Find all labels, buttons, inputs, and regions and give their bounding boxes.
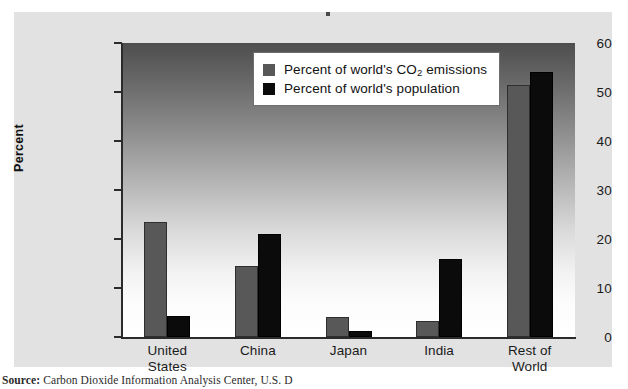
legend-swatch-population (263, 83, 275, 95)
source-text: Carbon Dioxide Information Analysis Cent… (43, 374, 293, 386)
bar-population (439, 259, 462, 337)
legend-swatch-co2 (263, 64, 275, 76)
bar-co2 (326, 317, 349, 337)
y-axis-tick (114, 287, 122, 288)
legend-item-population: Percent of world's population (263, 79, 487, 98)
source-prefix: Source: (2, 374, 40, 386)
x-axis-line (121, 337, 576, 339)
legend-item-co2: Percent of world's CO2 emissions (263, 60, 487, 79)
y-axis-tick (114, 42, 122, 43)
cropped-title-mark (326, 12, 330, 16)
figure-panel: 0102030405060 Percent UnitedStatesChinaJ… (14, 12, 612, 367)
source-caption: Source: Carbon Dioxide Information Analy… (2, 374, 293, 386)
legend-label-co2: Percent of world's CO2 emissions (284, 62, 487, 77)
bar-population (258, 234, 281, 337)
legend-label-population: Percent of world's population (284, 81, 460, 96)
bar-population (167, 316, 190, 337)
y-axis-tick (114, 189, 122, 190)
y-axis-tick (114, 238, 122, 239)
x-axis-label: Rest ofWorld (475, 343, 585, 374)
y-axis-tick (114, 91, 122, 92)
bar-co2 (416, 321, 439, 337)
bar-co2 (507, 85, 530, 337)
chart-legend: Percent of world's CO2 emissions Percent… (253, 52, 500, 106)
bar-co2 (144, 222, 167, 337)
y-axis-tick (114, 336, 122, 337)
bar-group (507, 43, 553, 337)
x-axis-label-line: World (475, 359, 585, 375)
x-axis-label-line: States (112, 359, 222, 375)
bar-population (349, 331, 372, 337)
y-axis-tick (114, 140, 122, 141)
bar-population (530, 72, 553, 337)
y-axis-title: Percent (12, 124, 26, 172)
bar-co2 (235, 266, 258, 337)
bar-group (144, 43, 190, 337)
x-axis-label-line: Rest of (475, 343, 585, 359)
